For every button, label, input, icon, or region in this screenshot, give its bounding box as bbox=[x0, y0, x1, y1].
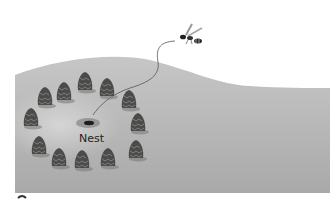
nest-label: Nest bbox=[79, 132, 104, 145]
wasp-icon bbox=[180, 24, 202, 44]
nest-icon bbox=[76, 118, 100, 128]
diagram-canvas bbox=[0, 0, 334, 201]
